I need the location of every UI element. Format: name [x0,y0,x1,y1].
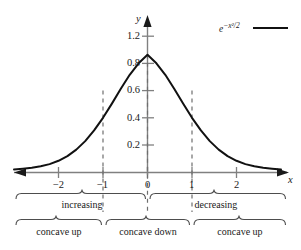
brace-concave-up-left [16,216,102,226]
gaussian-curve-figure: 1.2 0.8 0.6 0.4 0.2 −2 −1 0 1 2 y x e−x²… [0,0,301,250]
y-tick-label-0-4: 0.4 [112,113,140,124]
brace-row-concavity [16,216,286,226]
brace-label-concave-up-left: concave up [14,227,104,237]
y-tick-label-0-2: 0.2 [112,140,140,151]
brace-concave-up-right [194,216,286,226]
legend-entry-label: e−x²/2 [219,22,240,35]
x-axis-label: x [288,175,293,186]
legend-exponent: −x²/2 [223,21,239,30]
brace-decreasing [150,190,286,200]
y-axis-label: y [136,14,141,25]
brace-label-increasing: increasing [38,200,126,210]
brace-increasing [16,190,146,200]
x-tick-label-neg2: −2 [44,180,73,191]
y-tick-label-1-2: 1.2 [112,31,140,42]
y-tick-label-0-8: 0.8 [112,58,140,69]
brace-concave-down [106,216,190,226]
brace-label-decreasing: decreasing [172,200,260,210]
plot-canvas [0,0,301,250]
x-tick-label-neg1: −1 [88,180,117,191]
brace-label-concave-down: concave down [102,227,194,237]
y-tick-label-0-6: 0.6 [112,85,140,96]
brace-label-concave-up-right: concave up [194,227,286,237]
x-tick-label-pos2: 2 [222,180,251,191]
y-axis-top-arrowhead [143,15,151,27]
x-tick-label-0: 0 [133,180,162,191]
x-tick-label-pos1: 1 [177,180,206,191]
brace-row-increasing-decreasing [16,190,286,200]
x-axis [14,169,289,177]
